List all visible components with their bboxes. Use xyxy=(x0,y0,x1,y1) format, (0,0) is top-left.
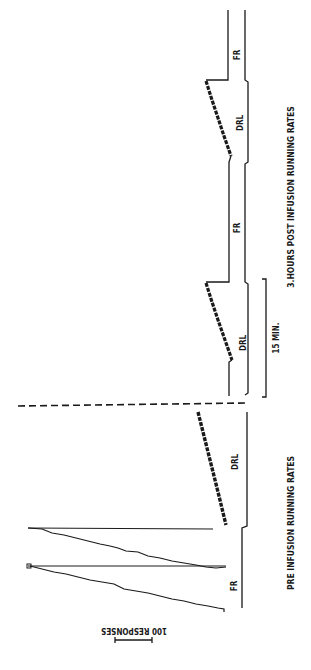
response-scale-bar xyxy=(115,637,152,643)
drl-mid-tail xyxy=(229,360,232,396)
cumulative-record-figure: FR DRL FR DRL DRL FR 15 MIN. 3.HOURS POS… xyxy=(0,0,311,670)
event-pen-line-pre xyxy=(242,412,247,608)
pre-infusion-record xyxy=(27,412,247,643)
drl-bottom-cumulative xyxy=(198,412,226,525)
label-fr-mid: FR xyxy=(233,222,242,233)
label-drl-bottom: DRL xyxy=(231,454,240,471)
fr-staircase-2 xyxy=(30,566,224,612)
fr-reset-line-1 xyxy=(28,528,213,529)
fr-mid-trace xyxy=(206,156,231,282)
fr-staircase-1 xyxy=(28,528,226,568)
drl-mid-cumulative xyxy=(206,283,232,360)
label-drl-top: DRL xyxy=(236,115,245,132)
time-scale-label: 15 MIN. xyxy=(272,322,281,353)
label-fr-top: FR xyxy=(233,49,242,60)
pre-infusion-caption: PRE INFUSION RUNNING RATES xyxy=(286,456,296,590)
drl-top-cumulative xyxy=(206,81,231,156)
divider-dashed-line xyxy=(18,403,246,406)
response-scale-label: 100 RESPONSES xyxy=(101,626,167,635)
post-infusion-caption: 3.HOURS POST INFUSION RUNNING RATES xyxy=(286,106,296,288)
fr-top-trace xyxy=(206,10,228,80)
time-scale-bracket xyxy=(262,279,266,397)
label-drl-mid: DRL xyxy=(239,335,248,352)
label-fr-bottom: FR xyxy=(230,580,239,591)
post-infusion-record xyxy=(206,10,266,397)
